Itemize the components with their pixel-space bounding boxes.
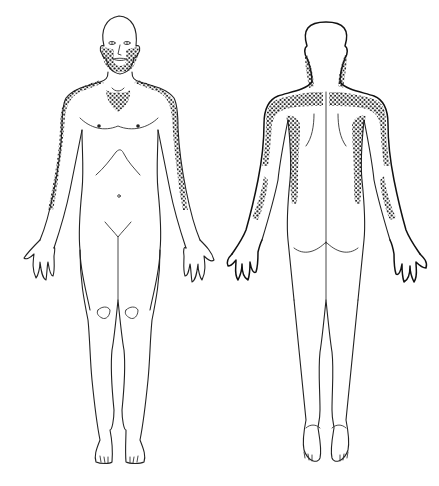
front-kneecap-left xyxy=(125,307,138,319)
back-hand-right xyxy=(390,240,427,282)
posterior-figure xyxy=(227,22,426,461)
front-navel xyxy=(118,195,121,198)
front-mouth xyxy=(113,58,127,60)
front-toes xyxy=(100,456,138,463)
front-nipple-right xyxy=(136,124,140,128)
front-nose xyxy=(118,45,121,55)
front-ribcage-arch xyxy=(96,150,140,175)
front-chest-line xyxy=(80,118,158,129)
stipple-scapular-left xyxy=(286,115,300,204)
front-inner-arms xyxy=(54,130,186,248)
front-legs-outline xyxy=(80,250,160,464)
stipple-neck-left xyxy=(305,55,314,88)
anterior-figure xyxy=(24,16,214,464)
stipple-upper-chest xyxy=(106,90,130,112)
front-torso-sides xyxy=(79,130,161,310)
front-kneecap-right xyxy=(97,307,110,319)
front-groin xyxy=(105,222,131,300)
front-hand-left xyxy=(184,240,214,282)
front-hand-right xyxy=(24,240,55,280)
back-buttocks xyxy=(294,242,358,300)
body-map-figure xyxy=(0,0,439,486)
back-hand-left xyxy=(227,240,262,280)
stipple-neck-right xyxy=(338,55,347,88)
stipple-face-beard xyxy=(101,48,139,73)
front-nipple-left xyxy=(97,124,101,128)
back-ankle-lines xyxy=(306,425,346,428)
stipple-shoulder-arm-left xyxy=(48,80,104,210)
back-legs-outline xyxy=(294,300,358,461)
stipple-scapular-right xyxy=(352,115,366,204)
